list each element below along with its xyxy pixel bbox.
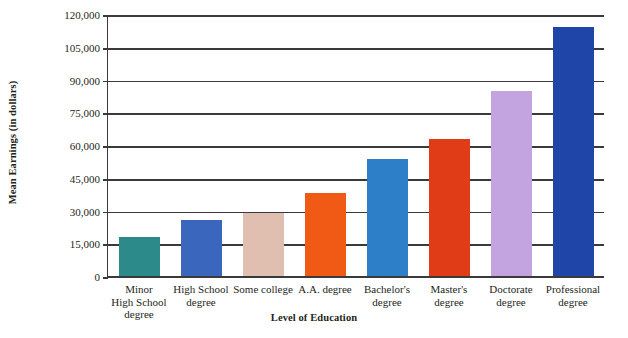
bar — [553, 27, 594, 278]
x-axis-category-label-line: Professional — [539, 283, 607, 296]
y-axis-tick-label: 0 — [0, 272, 100, 283]
x-axis-category-label-line: Minor — [105, 283, 173, 296]
y-axis-tick-label: 75,000 — [0, 108, 100, 119]
x-axis-category-label-line: High School — [105, 296, 173, 309]
bar — [181, 220, 222, 278]
y-axis-tick-label: 30,000 — [0, 207, 100, 218]
x-axis-category-label: Master'sdegree — [415, 283, 483, 308]
x-axis-category-label-line: Doctorate — [477, 283, 545, 296]
x-axis-category-label-line: Some college — [229, 283, 297, 296]
x-axis-category-label: Doctoratedegree — [477, 283, 545, 308]
x-axis-line — [107, 276, 605, 278]
x-axis-title: Level of Education — [0, 312, 628, 323]
y-axis-tick-label: 45,000 — [0, 174, 100, 185]
x-axis-category-label: A.A. degree — [291, 283, 359, 296]
y-axis-tick-label: 15,000 — [0, 239, 100, 250]
bar — [305, 193, 346, 278]
x-axis-category-label-line: Master's — [415, 283, 483, 296]
bar — [367, 159, 408, 278]
y-axis-tick-label: 90,000 — [0, 76, 100, 87]
bar-chart: Mean Earnings (in dollars) 015,00030,000… — [0, 0, 628, 338]
y-axis-tick-label: 60,000 — [0, 141, 100, 152]
x-axis-category-label: High Schooldegree — [167, 283, 235, 308]
y-axis-line — [107, 16, 109, 278]
x-axis-category-label-line: degree — [477, 296, 545, 309]
gridline — [108, 15, 604, 17]
x-axis-category-label-line: High School — [167, 283, 235, 296]
plot-area — [108, 16, 604, 278]
x-axis-category-label: Some college — [229, 283, 297, 296]
x-axis-category-label-line: degree — [415, 296, 483, 309]
x-axis-category-label-line: degree — [167, 296, 235, 309]
gridline — [108, 48, 604, 50]
x-axis-category-label: Bachelor'sdegree — [353, 283, 421, 308]
bar — [491, 91, 532, 278]
bar — [243, 213, 284, 279]
x-axis-category-label-line: degree — [353, 296, 421, 309]
y-axis-tick-label: 105,000 — [0, 43, 100, 54]
x-axis-title-text: Level of Education — [271, 312, 357, 323]
x-axis-category-label-line: A.A. degree — [291, 283, 359, 296]
x-axis-category-label-line: degree — [539, 296, 607, 309]
gridline — [108, 81, 604, 83]
y-axis-tick-label: 120,000 — [0, 10, 100, 21]
bar — [119, 237, 160, 278]
x-axis-category-label: Professionaldegree — [539, 283, 607, 308]
bar — [429, 139, 470, 278]
x-axis-category-label-line: Bachelor's — [353, 283, 421, 296]
